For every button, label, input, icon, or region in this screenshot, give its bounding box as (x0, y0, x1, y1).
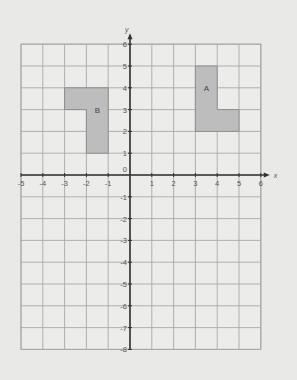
x-tick-label: 2 (172, 179, 176, 188)
y-tick-label: -8 (120, 345, 127, 354)
y-tick-label: -4 (120, 258, 127, 267)
y-tick-label: -5 (120, 280, 127, 289)
y-tick-label: -1 (120, 193, 127, 202)
y-tick-label: -6 (120, 302, 127, 311)
grid-lines (21, 44, 261, 349)
y-axis-label: y (124, 26, 129, 34)
x-tick-label: -2 (83, 179, 90, 188)
y-tick-label: -2 (120, 215, 127, 224)
y-tick-label: 5 (123, 62, 127, 71)
x-tick-label: -1 (105, 179, 112, 188)
x-tick-label: -4 (39, 179, 46, 188)
coordinate-grid-diagram: AB -5-4-3-2-1123456654321-1-2-3-4-5-6-7-… (0, 0, 297, 380)
x-tick-label: -3 (61, 179, 68, 188)
origin-label: 0 (123, 165, 127, 174)
y-tick-label: 1 (123, 149, 127, 158)
y-tick-label: -7 (120, 324, 127, 333)
y-tick-label: 4 (123, 84, 127, 93)
y-tick-label: 2 (123, 127, 127, 136)
y-tick-label: -3 (120, 236, 127, 245)
x-tick-label: 6 (259, 179, 263, 188)
x-tick-label: 1 (150, 179, 154, 188)
y-tick-label: 6 (123, 40, 127, 49)
shape-label-a: A (204, 84, 210, 93)
x-tick-label: -5 (18, 179, 25, 188)
x-tick-label: 3 (193, 179, 197, 188)
x-axis-label: x (273, 172, 278, 179)
shape-label-b: B (95, 106, 100, 115)
y-tick-label: 3 (123, 106, 127, 115)
x-tick-label: 4 (215, 179, 219, 188)
y-axis-arrow-icon (128, 33, 133, 39)
x-axis-arrow-icon (264, 173, 270, 178)
x-tick-label: 5 (237, 179, 241, 188)
grid-plot: AB -5-4-3-2-1123456654321-1-2-3-4-5-6-7-… (0, 0, 297, 380)
